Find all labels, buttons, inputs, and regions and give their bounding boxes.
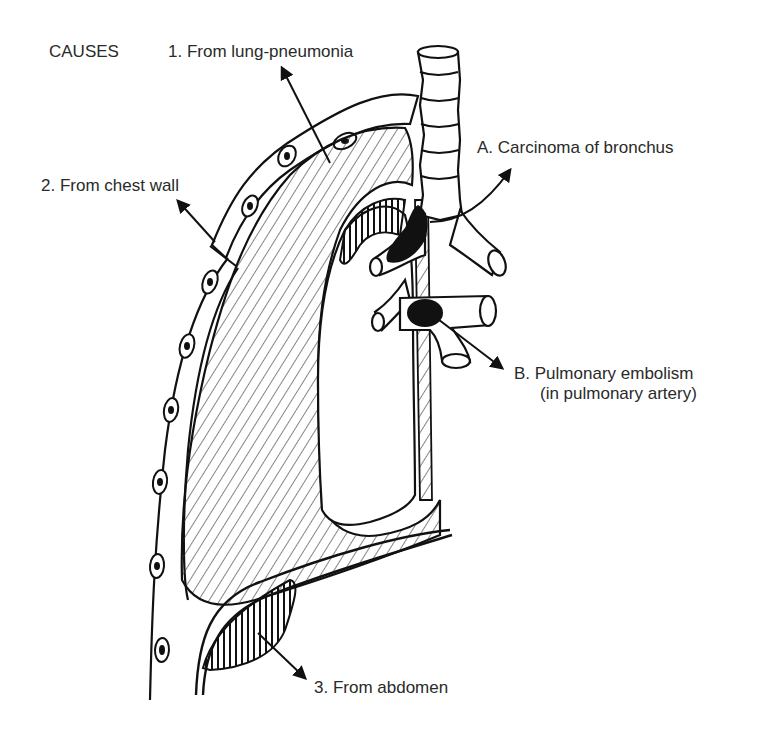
arrow-cause-3 <box>258 633 305 678</box>
right-bronchus <box>450 210 509 278</box>
label-cause-a: A. Carcinoma of bronchus <box>477 138 674 158</box>
label-cause-1: 1. From lung-pneumonia <box>168 42 353 62</box>
label-cause-2: 2. From chest wall <box>41 176 179 196</box>
heading-causes: CAUSES <box>49 42 119 62</box>
embolus-clot <box>407 299 443 327</box>
label-cause-3: 3. From abdomen <box>314 678 448 698</box>
trachea <box>418 46 462 220</box>
label-cause-b-line2: (in pulmonary artery) <box>540 384 697 404</box>
lung-causes-diagram: CAUSES 1. From lung-pneumonia 2. From ch… <box>0 0 771 736</box>
label-cause-b-line1: B. Pulmonary embolism <box>514 364 694 384</box>
arrow-cause-2 <box>178 201 215 242</box>
